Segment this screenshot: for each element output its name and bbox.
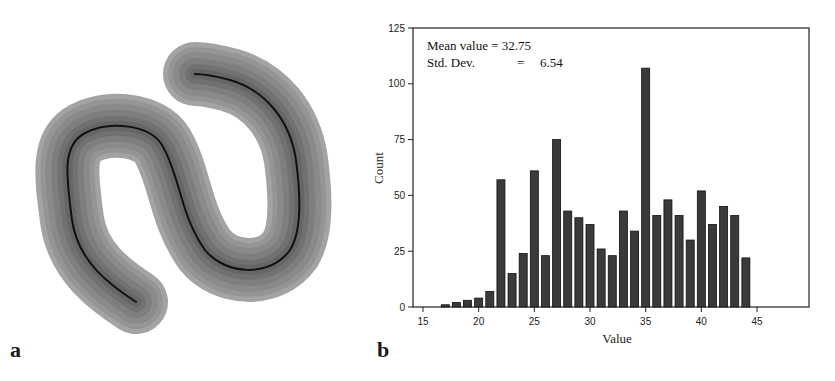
svg-text:Mean value = 32.75: Mean value = 32.75 [427, 38, 531, 53]
histogram-bar [653, 215, 661, 307]
histogram-bar [464, 300, 472, 307]
stats-annotation: Mean value = 32.75 Std. Dev. = 6.54 [427, 38, 563, 70]
y-tick-label: 125 [388, 23, 405, 34]
histogram-bar [664, 200, 672, 307]
histogram-chart: 0255075100125 15202530354045 Count Value… [0, 0, 835, 381]
histogram-bar [697, 191, 705, 307]
std-eq: = [517, 55, 524, 70]
y-tick-label: 100 [388, 78, 405, 89]
histogram-bar [553, 140, 561, 307]
histogram-bar [508, 274, 516, 307]
x-tick-label: 20 [473, 316, 485, 327]
svg-text:=: = [517, 55, 524, 70]
y-tick-label: 25 [394, 246, 406, 257]
y-axis: 0255075100125 [388, 23, 413, 313]
mean-label: Mean value [427, 38, 488, 53]
x-tick-label: 30 [584, 316, 596, 327]
x-tick-label: 25 [529, 316, 541, 327]
y-tick-label: 50 [394, 190, 406, 201]
histogram-bar [708, 224, 716, 307]
y-tick-label: 0 [399, 302, 405, 313]
histogram-bar [675, 215, 683, 307]
histogram-bar [631, 231, 639, 307]
y-axis-title: Count [371, 152, 386, 184]
histogram-bar [586, 224, 594, 307]
std-label: Std. Dev. [427, 55, 475, 70]
histogram-bar [452, 303, 460, 307]
y-tick-label: 75 [394, 134, 406, 145]
x-tick-label: 15 [417, 316, 429, 327]
x-tick-label: 35 [640, 316, 652, 327]
std-value: 6.54 [540, 55, 563, 70]
histogram-bar [686, 240, 694, 307]
histogram-bar [530, 171, 538, 307]
histogram-bar [541, 256, 549, 307]
histogram-bar [720, 207, 728, 307]
histogram-bar [441, 305, 449, 307]
histogram-bar [519, 253, 527, 307]
histogram-bar [475, 298, 483, 307]
histogram-bar [597, 249, 605, 307]
histogram-bar [564, 211, 572, 307]
svg-text:6.54: 6.54 [540, 55, 563, 70]
x-tick-label: 40 [696, 316, 708, 327]
x-axis: 15202530354045 [417, 307, 763, 327]
histogram-bar [497, 180, 505, 307]
x-tick-label: 45 [751, 316, 763, 327]
histogram-bar [742, 258, 750, 307]
histogram-bar [731, 215, 739, 307]
histogram-bar [642, 68, 650, 307]
mean-eq: = [491, 38, 498, 53]
histogram-bar [608, 256, 616, 307]
histogram-bar [486, 291, 494, 307]
histogram-bars [441, 68, 750, 307]
histogram-bar [575, 218, 583, 307]
x-axis-title: Value [602, 331, 632, 346]
histogram-bar [619, 211, 627, 307]
mean-value: 32.75 [502, 38, 531, 53]
svg-text:Std. Dev.: Std. Dev. [427, 55, 475, 70]
